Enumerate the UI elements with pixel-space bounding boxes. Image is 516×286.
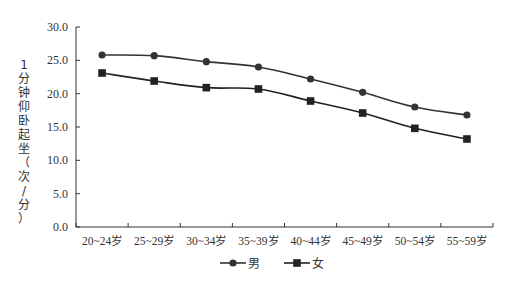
circle-marker-icon (463, 111, 470, 118)
y-tick-label: 0.0 (53, 220, 68, 234)
square-marker-icon (463, 135, 471, 143)
x-tick-label: 45~49岁 (343, 234, 383, 247)
line-chart: 0.05.010.015.020.025.030.020~24岁25~29岁30… (0, 0, 516, 286)
series-male (98, 51, 470, 118)
legend-label: 男 (248, 257, 260, 271)
square-marker-icon (255, 85, 263, 93)
axes: 0.05.010.015.020.025.030.020~24岁25~29岁30… (47, 20, 493, 247)
legend-label: 女 (312, 256, 324, 271)
circle-marker-icon (98, 51, 105, 58)
square-marker-icon (203, 84, 211, 92)
x-tick-label: 50~54岁 (395, 234, 435, 247)
circle-marker-icon (151, 52, 158, 59)
y-tick-label: 20.0 (47, 87, 68, 101)
square-marker-icon (150, 77, 158, 85)
square-marker-icon (307, 97, 315, 105)
square-marker-icon (359, 109, 367, 117)
x-tick-label: 30~34岁 (186, 234, 226, 247)
x-tick-label: 55~59岁 (447, 234, 487, 247)
legend-item: 女 (284, 256, 324, 271)
x-tick-label: 25~29岁 (134, 234, 174, 247)
series-group (98, 51, 470, 142)
circle-marker-icon (255, 63, 262, 70)
circle-marker-icon (359, 89, 366, 96)
x-tick-label: 40~44岁 (290, 234, 330, 247)
square-marker-icon (293, 259, 301, 267)
x-tick-label: 20~24岁 (82, 234, 122, 247)
square-marker-icon (98, 69, 106, 77)
y-tick-label: 5.0 (53, 187, 68, 201)
y-tick-label: 25.0 (47, 53, 68, 67)
legend-item: 男 (220, 257, 260, 271)
y-tick-label: 15.0 (47, 120, 68, 134)
legend: 男女 (220, 256, 324, 271)
circle-marker-icon (307, 75, 314, 82)
square-marker-icon (411, 125, 419, 133)
x-tick-label: 35~39岁 (238, 234, 278, 247)
circle-marker-icon (203, 58, 210, 65)
y-tick-label: 30.0 (47, 20, 68, 34)
y-tick-label: 10.0 (47, 153, 68, 167)
circle-marker-icon (229, 259, 236, 266)
circle-marker-icon (411, 103, 418, 110)
